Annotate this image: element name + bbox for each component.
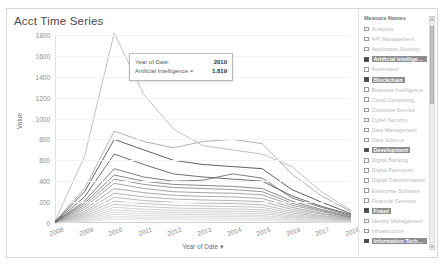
legend-swatch-icon [364, 37, 369, 42]
legend-swatch-icon [364, 97, 369, 102]
x-axis-tick-label: 2013 [196, 226, 212, 238]
legend-item-label: API Management [372, 36, 415, 42]
tooltip-label: Year of Date: [135, 58, 170, 67]
legend-item-label: Information Techno... [372, 238, 428, 244]
y-axis-tick-label: 1800 [36, 32, 50, 39]
y-axis-tick-label: 1200 [36, 94, 50, 101]
legend-item-label: Digital Payments [372, 167, 413, 173]
x-axis-tick-label: 2014 [226, 226, 242, 238]
y-axis-tick-label: 200 [39, 199, 50, 206]
legend-item-label: Data Science [372, 137, 405, 143]
legend-swatch-icon [364, 67, 369, 72]
legend-item-label: Cyber Security [372, 117, 408, 123]
legend-item[interactable]: Information Techno... [364, 236, 427, 246]
legend-swatch-icon [364, 229, 369, 234]
y-axis-tick-label: 400 [39, 178, 50, 185]
legend-item[interactable]: Automation [364, 64, 427, 74]
legend-swatch-icon [364, 118, 369, 123]
legend-item-label: Cloud Computing [372, 97, 415, 103]
legend-swatch-icon [364, 77, 369, 82]
legend-item-label: Digital Banking [372, 157, 409, 163]
legend-item[interactable]: Cloud Computing [364, 95, 427, 105]
legend-list[interactable]: AnalyticsAPI ManagementApplication Secur… [364, 24, 435, 248]
legend-item-label: Customer Service [372, 107, 416, 113]
legend-item[interactable]: API Management [364, 34, 427, 44]
legend-item[interactable]: Digital Transformation [364, 175, 427, 185]
legend-item-label: Artificial Intelligen... [372, 56, 428, 62]
scroll-up-icon[interactable]: ▴ [429, 16, 435, 22]
legend-item[interactable]: Customer Service [364, 105, 427, 115]
legend-swatch-icon [364, 57, 369, 62]
legend-item[interactable]: Development [364, 145, 427, 155]
x-axis-tick-label: 2017 [315, 226, 331, 238]
legend-item[interactable]: Cyber Security [364, 115, 427, 125]
scrollbar-thumb[interactable] [430, 26, 434, 104]
legend-swatch-icon [364, 188, 369, 193]
legend-item-label: Digital Transformation [372, 177, 426, 183]
legend-item[interactable]: Analytics [364, 24, 427, 34]
legend-item[interactable]: Fraud [364, 206, 427, 216]
y-axis-tick-label: 1000 [36, 115, 50, 122]
legend-swatch-icon [364, 148, 369, 153]
legend-item-label: Business Intelligence [372, 87, 424, 93]
x-axis-tick-label: 2011 [137, 226, 153, 237]
page-title: Acct Time Series [14, 15, 103, 27]
tooltip-row: Year of Date: 2010 [135, 58, 227, 67]
x-axis-tick-label: 2012 [167, 226, 183, 238]
legend-item-label: Blockchain [372, 77, 405, 83]
legend-item[interactable]: Innovation Strategy [364, 246, 427, 248]
x-axis-tick-label: 2015 [255, 226, 271, 238]
legend-item[interactable]: Infrastructure [364, 226, 427, 236]
viz-container: Acct Time Series Value Year of Date ▾ 18… [6, 8, 438, 258]
gridline [55, 160, 351, 161]
legend-item[interactable]: Data Management [364, 125, 427, 135]
y-axis-tick-label: 600 [39, 157, 50, 164]
legend-item-label: Identity Management [372, 218, 423, 224]
legend-swatch-icon [364, 108, 369, 113]
legend-item[interactable]: Artificial Intelligen... [364, 54, 427, 64]
legend-item-label: Analytics [372, 26, 394, 32]
tooltip-label: Artificial Intelligence = [135, 67, 193, 76]
legend-item-label: Application Security [372, 46, 420, 52]
chart-pane: Acct Time Series Value Year of Date ▾ 18… [7, 9, 358, 257]
legend-pane: Measure Names AnalyticsAPI ManagementApp… [358, 9, 437, 257]
legend-scrollbar[interactable] [429, 23, 435, 243]
legend-swatch-icon [364, 128, 369, 133]
legend-item-label: Fraud [372, 208, 391, 214]
legend-item-label: Financial Services [372, 198, 417, 204]
legend-item-label: Data Management [372, 127, 417, 133]
legend-item[interactable]: Digital Banking [364, 155, 427, 165]
gridline [55, 119, 351, 120]
tooltip-value: 2010 [214, 58, 227, 67]
legend-swatch-icon [364, 239, 369, 244]
legend-swatch-icon [364, 87, 369, 92]
legend-item[interactable]: Business Intelligence [364, 85, 427, 95]
y-axis-tick-label: 1400 [36, 73, 50, 80]
legend-item-label: Enterprise Software [372, 188, 420, 194]
gridline [55, 35, 351, 36]
legend-swatch-icon [364, 158, 369, 163]
legend-swatch-icon [364, 27, 369, 32]
gridline [55, 181, 351, 182]
x-axis-tick-label: 2010 [107, 226, 123, 238]
y-axis-tick-label: 1600 [36, 52, 50, 59]
legend-item[interactable]: Identity Management [364, 216, 427, 226]
legend-item-label: Infrastructure [372, 228, 404, 234]
scroll-down-icon[interactable]: ▾ [429, 244, 435, 250]
gridline [55, 139, 351, 140]
legend-item[interactable]: Blockchain [364, 74, 427, 84]
tooltip-value: 1,819 [212, 67, 227, 76]
legend-swatch-icon [364, 178, 369, 183]
legend-item[interactable]: Application Security [364, 44, 427, 54]
legend-item[interactable]: Digital Payments [364, 165, 427, 175]
legend-item[interactable]: Enterprise Software [364, 186, 427, 196]
x-axis-tick-label: 2008 [48, 226, 64, 238]
data-tooltip: Year of Date: 2010 Artificial Intelligen… [129, 53, 233, 81]
gridline [55, 202, 351, 203]
y-axis-title: Value [16, 113, 23, 129]
legend-item-label: Automation [372, 66, 400, 72]
legend-item[interactable]: Data Science [364, 135, 427, 145]
x-axis-tick-label: 2009 [78, 226, 94, 238]
legend-item[interactable]: Financial Services [364, 196, 427, 206]
legend-swatch-icon [364, 219, 369, 224]
